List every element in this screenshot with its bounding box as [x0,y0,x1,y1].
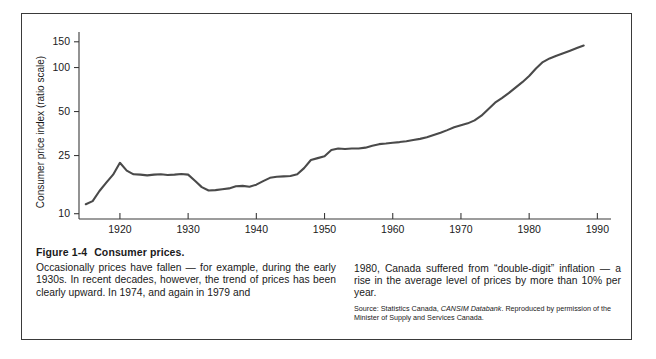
caption-text-right: 1980, Canada suffered from “double-digit… [354,263,621,300]
caption-text-left: Occasionally prices have fallen — for ex… [36,262,336,299]
y-tick-label: 100 [52,61,70,73]
figure-title: Consumer prices. [94,246,184,258]
y-tick-label: 150 [52,35,70,47]
figure-caption: Figure 1-4Consumer prices. Occasionally … [22,246,633,341]
x-tick-label: 1990 [586,223,610,235]
chart-area: Consumer price index (ratio scale) 10255… [22,14,633,236]
x-tick-label: 1970 [449,223,473,235]
y-axis-ticks: 102550100150 [52,35,79,219]
cpi-series-line [86,45,584,204]
consumer-price-index-line-chart: Consumer price index (ratio scale) 10255… [22,14,633,236]
x-tick-label: 1950 [313,223,337,235]
x-tick-label: 1920 [108,223,132,235]
y-tick-label: 10 [58,207,70,219]
figure-number: Figure 1-4 [36,246,87,258]
y-axis-label: Consumer price index (ratio scale) [35,56,46,208]
x-axis-ticks: 19201930194019501960197019801990 [108,213,609,235]
y-tick-label: 50 [58,105,70,117]
source-prefix: Source: Statistics Canada, [354,304,441,313]
figure-frame: Consumer price index (ratio scale) 10255… [21,13,632,340]
x-tick-label: 1940 [245,223,269,235]
x-tick-label: 1960 [381,223,405,235]
x-tick-label: 1930 [176,223,200,235]
y-tick-label: 25 [58,149,70,161]
figure-source: Source: Statistics Canada, CANSIM Databa… [354,304,621,322]
x-tick-label: 1980 [517,223,541,235]
caption-right-column: 1980, Canada suffered from “double-digit… [354,246,621,341]
source-publication: CANSIM Databank [441,304,502,313]
figure-title-line: Figure 1-4Consumer prices. [36,246,336,258]
caption-left-column: Figure 1-4Consumer prices. Occasionally … [36,246,336,341]
